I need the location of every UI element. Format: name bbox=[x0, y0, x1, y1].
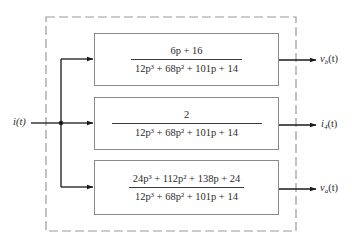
numerator: 2 bbox=[180, 108, 193, 123]
transfer-block-vb: 6p + 16 12p³ + 68p² + 101p + 14 bbox=[94, 33, 279, 86]
numerator: 6p + 16 bbox=[166, 44, 206, 59]
denominator: 12p³ + 68p² + 101p + 14 bbox=[131, 124, 242, 139]
transfer-function-va: 24p³ + 112p² + 138p + 24 12p³ + 68p² + 1… bbox=[129, 172, 245, 203]
denominator: 12p³ + 68p² + 101p + 14 bbox=[131, 188, 242, 203]
denominator: 12p³ + 68p² + 101p + 14 bbox=[131, 60, 242, 75]
output-label-vb: vb(t) bbox=[320, 53, 338, 66]
output-label-va: va(t) bbox=[320, 182, 338, 195]
input-label: i(t) bbox=[13, 116, 26, 127]
transfer-function-i4: 2 12p³ + 68p² + 101p + 14 bbox=[112, 108, 262, 139]
transfer-block-va: 24p³ + 112p² + 138p + 24 12p³ + 68p² + 1… bbox=[94, 160, 279, 215]
transfer-function-vb: 6p + 16 12p³ + 68p² + 101p + 14 bbox=[131, 44, 242, 75]
output-label-i4: i4(t) bbox=[321, 118, 337, 131]
input-label-text: i(t) bbox=[13, 116, 26, 127]
numerator: 24p³ + 112p² + 138p + 24 bbox=[129, 172, 245, 187]
block-diagram: i(t) 6p + 16 12p³ + 68p² + 101p + 14 2 1… bbox=[0, 0, 352, 249]
transfer-block-i4: 2 12p³ + 68p² + 101p + 14 bbox=[94, 97, 279, 150]
